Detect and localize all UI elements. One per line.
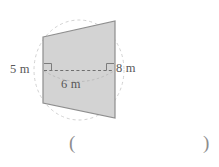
left-height-label: 5 m (10, 63, 30, 76)
geometry-figure-container: 5 m 8 m 6 m ( ) (0, 0, 219, 167)
answer-close-paren: ) (203, 133, 209, 152)
right-height-label: 8 m (116, 62, 136, 75)
diameter-label: 6 m (61, 78, 81, 91)
answer-open-paren: ( (69, 133, 75, 152)
trapezoid-shape (43, 21, 115, 118)
figure-drawing (0, 0, 219, 167)
